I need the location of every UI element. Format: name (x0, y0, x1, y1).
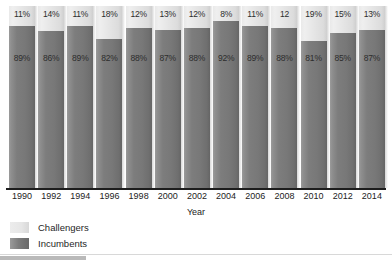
x-axis-tick-labels: 1990199219941996199820002002200420062008… (9, 191, 385, 202)
legend-swatch-challengers-icon (10, 222, 29, 233)
bar-value-label-incumbents: 88% (184, 54, 210, 63)
bar-value-label-challengers: 12% (184, 10, 210, 19)
bar-column: 14%86% (38, 6, 64, 188)
bar-value-label-incumbents: 87% (155, 54, 181, 63)
bottom-rule (0, 254, 392, 255)
bar-value-label-incumbents: 88% (271, 54, 297, 63)
bar-value-label-challengers: 11% (67, 10, 93, 19)
bar-column: 13%87% (359, 6, 385, 188)
bar-column: 12%88% (126, 6, 152, 188)
bar-value-label-challengers: 15% (330, 10, 356, 19)
x-axis-tick-label: 2014 (359, 191, 385, 202)
x-axis-tick-label: 2012 (330, 191, 356, 202)
bar-value-label-challengers: 13% (359, 10, 385, 19)
x-axis-tick-label: 2006 (242, 191, 268, 202)
bar-segment-incumbents (67, 26, 93, 188)
legend-label-incumbents: Incumbents (38, 238, 87, 249)
x-axis-line (6, 188, 386, 190)
bar-value-label-challengers: 18% (96, 10, 122, 19)
bar-column: 11%89% (67, 6, 93, 188)
bar-value-label-incumbents: 89% (242, 54, 268, 63)
x-axis-tick-label: 2000 (155, 191, 181, 202)
plot-area: 11%89%14%86%11%89%18%82%12%88%13%87%12%8… (9, 6, 385, 188)
bar-segment-incumbents (9, 26, 35, 188)
bar-value-label-incumbents: 89% (67, 54, 93, 63)
x-axis-tick-label: 2008 (271, 191, 297, 202)
bar-column: 15%85% (330, 6, 356, 188)
stacked-bar-chart: 11%89%14%86%11%89%18%82%12%88%13%87%12%8… (0, 0, 392, 263)
bar-column: 11%89% (242, 6, 268, 188)
chart-legend: Challengers Incumbents (10, 219, 89, 251)
bar-value-label-challengers: 11% (9, 10, 35, 19)
bar-value-label-incumbents: 82% (96, 54, 122, 63)
bar-value-label-incumbents: 85% (330, 54, 356, 63)
bar-value-label-challengers: 13% (155, 10, 181, 19)
x-axis-tick-label: 2010 (301, 191, 327, 202)
x-axis-tick-label: 1994 (67, 191, 93, 202)
bar-segment-incumbents (271, 28, 297, 188)
bar-column: 18%82% (96, 6, 122, 188)
x-axis-title: Year (0, 207, 392, 217)
bottom-edge-artifact (0, 256, 86, 260)
bar-column: 8%92% (213, 6, 239, 188)
bar-value-label-incumbents: 81% (301, 54, 327, 63)
x-axis-tick-label: 1990 (9, 191, 35, 202)
bar-column: 11%89% (9, 6, 35, 188)
bar-column: 12%88% (184, 6, 210, 188)
bar-segment-incumbents (126, 28, 152, 188)
bar-value-label-challengers: 12% (126, 10, 152, 19)
x-axis-tick-label: 1996 (96, 191, 122, 202)
legend-swatch-incumbents-icon (10, 238, 29, 249)
legend-label-challengers: Challengers (38, 222, 89, 233)
bar-value-label-incumbents: 92% (213, 54, 239, 63)
x-axis-tick-label: 2002 (184, 191, 210, 202)
bar-value-label-challengers: 11% (242, 10, 268, 19)
bar-value-label-incumbents: 88% (126, 54, 152, 63)
bar-value-label-challengers: 12 (271, 10, 297, 19)
x-axis-tick-label: 2004 (213, 191, 239, 202)
bar-value-label-incumbents: 87% (359, 54, 385, 63)
bar-segment-incumbents (184, 28, 210, 188)
bar-column: 19%81% (301, 6, 327, 188)
bar-column: 13%87% (155, 6, 181, 188)
bar-value-label-challengers: 14% (38, 10, 64, 19)
bar-segment-incumbents (242, 26, 268, 188)
x-axis-tick-label: 1998 (126, 191, 152, 202)
legend-item-challengers: Challengers (10, 219, 89, 235)
x-axis-tick-label: 1992 (38, 191, 64, 202)
bar-value-label-incumbents: 89% (9, 54, 35, 63)
bar-value-label-incumbents: 86% (38, 54, 64, 63)
legend-item-incumbents: Incumbents (10, 235, 89, 251)
bar-segment-incumbents (213, 21, 239, 188)
bar-column: 1288% (271, 6, 297, 188)
bar-value-label-challengers: 8% (213, 10, 239, 19)
bar-value-label-challengers: 19% (301, 10, 327, 19)
